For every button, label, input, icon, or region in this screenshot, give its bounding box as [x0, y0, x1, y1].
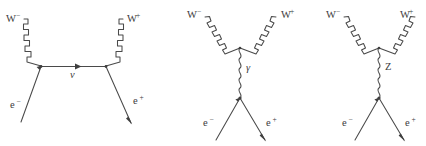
label-electron-sup: − — [349, 115, 353, 124]
label-w-plus-sup: + — [290, 7, 294, 16]
label-z-mediator: Z — [385, 61, 391, 72]
vertex-dot-bottom — [377, 96, 380, 99]
vertex-dot-top — [378, 47, 381, 50]
vertex-dot-right — [105, 65, 108, 68]
label-electron-sup: − — [210, 115, 214, 124]
label-photon-mediator: γ — [246, 62, 251, 73]
label-w-plus-sup: + — [136, 11, 140, 20]
photon-propagator-line — [239, 48, 241, 98]
vertex-dot-bottom — [238, 96, 241, 99]
label-positron-sup: + — [412, 115, 416, 124]
label-w-minus: W — [6, 13, 16, 24]
label-w-plus-sup: + — [409, 7, 413, 16]
label-electron: e — [203, 117, 208, 128]
label-neutrino-mediator: ν — [70, 69, 75, 80]
w-plus-boson-line — [106, 19, 124, 66]
w-plus-boson-line — [379, 17, 415, 55]
feynman-diagram-figure: W − W + e − e + ν — [0, 0, 426, 146]
positron-outgoing-line — [106, 67, 131, 124]
w-minus-boson-line — [24, 19, 42, 66]
label-positron: e — [405, 117, 410, 128]
electron-incoming-line — [355, 98, 379, 140]
label-w-minus-sup: − — [16, 11, 20, 20]
electron-incoming-line — [216, 98, 240, 140]
label-positron: e — [133, 95, 138, 106]
vertex-dot-left — [40, 65, 43, 68]
neutrino-exchange-diagram: W − W + e − e + ν — [6, 11, 144, 125]
neutrino-propagator-arrow — [75, 63, 82, 69]
label-w-minus: W — [326, 9, 336, 20]
label-w-minus-sup: − — [197, 7, 201, 16]
label-w-minus: W — [187, 9, 197, 20]
electron-incoming-line — [21, 67, 41, 123]
label-electron: e — [10, 99, 15, 110]
label-positron-sup: + — [140, 93, 144, 102]
w-minus-boson-line — [205, 17, 240, 55]
w-plus-boson-line — [240, 17, 276, 55]
positron-outgoing-line — [379, 98, 404, 140]
z-boson-exchange-diagram: W − W + e − e + Z — [326, 7, 416, 141]
label-positron: e — [266, 117, 271, 128]
w-minus-boson-line — [344, 17, 379, 55]
label-positron-sup: + — [273, 115, 277, 124]
positron-outgoing-arrow — [260, 134, 267, 142]
positron-outgoing-arrow — [399, 134, 406, 142]
positron-outgoing-line — [240, 98, 265, 140]
z-boson-propagator-line — [378, 48, 380, 98]
photon-exchange-diagram: W − W + e − e + γ — [187, 7, 294, 141]
label-electron: e — [342, 117, 347, 128]
label-w-minus-sup: − — [336, 7, 340, 16]
vertex-dot-top — [239, 47, 242, 50]
label-electron-sup: − — [17, 97, 21, 106]
